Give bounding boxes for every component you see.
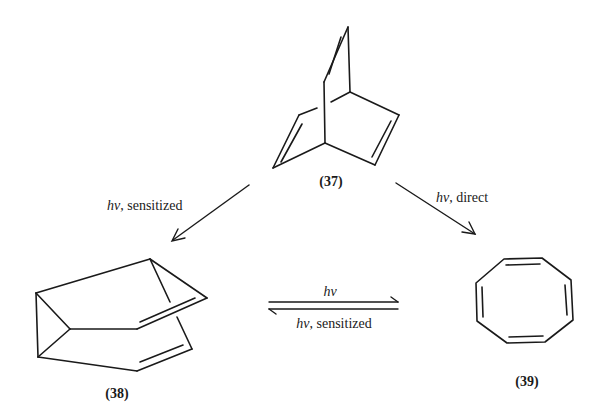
arrow-37-to-38: [172, 185, 249, 241]
reaction-scheme: (37) hν, sensitized hν, direct (38) hν h…: [0, 0, 599, 416]
reverse-arrow-label: hν, sensitized: [296, 316, 371, 331]
arrow-37-38-label: hν, sensitized: [107, 198, 182, 213]
equilibrium-arrows: [269, 297, 398, 314]
hv-text: hν: [107, 198, 121, 213]
compound-37-label: (37): [319, 174, 343, 190]
hv-text: hν: [296, 316, 310, 331]
compound-37-structure: [273, 27, 399, 168]
condition-text: , sensitized: [310, 316, 372, 331]
forward-arrow-label: hν: [323, 284, 337, 299]
compound-38-label: (38): [105, 386, 129, 402]
hv-text: hν: [436, 190, 450, 205]
compound-39-label: (39): [515, 374, 539, 390]
condition-text: , direct: [449, 190, 488, 205]
arrow-37-39-label: hν, direct: [436, 190, 488, 205]
compound-38-structure: [36, 259, 207, 371]
compound-39-structure: [476, 258, 573, 343]
condition-text: , sensitized: [120, 198, 182, 213]
